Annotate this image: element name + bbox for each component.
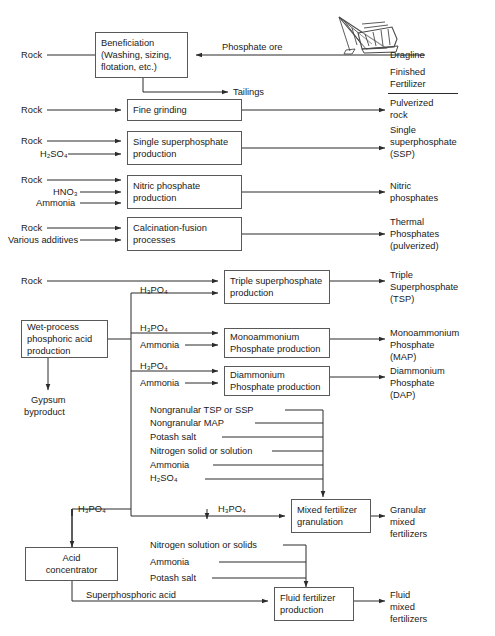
process-line: Fluid fertilizer [280, 592, 348, 604]
output-diammonium-phosphate: Diammonium Phosphate (DAP) [390, 365, 445, 402]
input-label-rock-tsp: Rock [21, 275, 42, 287]
process-box-single-superphosphate[interactable]: Single superphosphate production [127, 131, 242, 165]
process-box-calcination-fusion[interactable]: Calcination-fusion processes [127, 217, 242, 251]
input-label-nongranular-tsp-ssp: Nongranular TSP or SSP [150, 404, 254, 416]
process-box-fine-grinding[interactable]: Fine grinding [127, 99, 242, 121]
output-line: Nitric [390, 180, 438, 192]
input-label-h3po4-concentrator: H₃PO₄ [78, 503, 106, 515]
process-box-acid-concentrator[interactable]: Acid concentrator [25, 547, 118, 581]
input-label-potash-salt-fluid: Potash salt [150, 572, 196, 584]
process-box-monoammonium-phosphate[interactable]: Monoammonium Phosphate production [224, 328, 330, 358]
output-granular-mixed-fertilizers: Granular mixed fertilizers [390, 504, 427, 541]
output-line: Pulverized [390, 97, 433, 109]
input-label-rock-fine-grinding: Rock [21, 104, 42, 116]
input-label-rock-beneficiation: Rock [21, 49, 42, 61]
process-line: Diammonium [230, 369, 324, 381]
output-line: Monoammonium [390, 327, 459, 339]
header-underline [388, 93, 458, 94]
process-line: granulation [297, 516, 365, 528]
output-triple-superphosphate: Triple Superphosphate (TSP) [390, 269, 458, 306]
process-line: Fine grinding [133, 104, 236, 116]
process-box-triple-superphosphate[interactable]: Triple superphosphate production [224, 270, 330, 304]
input-label-h3po4-granulation: H₃PO₄ [218, 503, 246, 515]
process-line: Phosphate production [230, 343, 324, 355]
input-label-rock-calcination: Rock [21, 222, 42, 234]
finished-fertilizer-header-line1: Finished [390, 66, 425, 78]
output-line: (TSP) [390, 293, 458, 305]
process-box-beneficiation[interactable]: Beneficiation (Washing, sizing, flotatio… [95, 32, 188, 78]
input-label-potash-salt-granulation: Potash salt [150, 431, 196, 443]
output-line: fertilizers [390, 613, 427, 625]
process-line: Mixed fertilizer [297, 504, 365, 516]
output-line: fertilizers [390, 528, 427, 540]
output-line: Phosphate [390, 339, 459, 351]
input-label-rock-ssp: Rock [21, 135, 42, 147]
output-line: mixed [390, 601, 427, 613]
input-label-various-additives: Various additives [8, 234, 78, 246]
input-label-nitrogen-solid-or-solution: Nitrogen solid or solution [150, 445, 252, 457]
process-box-wet-process-phosphoric-acid[interactable]: Wet-process phosphoric acid production [21, 320, 108, 358]
intermediate-label-tailings: Tailings [233, 86, 264, 98]
byproduct-label-gypsum-line2: byproduct [24, 406, 65, 418]
process-line: production [133, 192, 236, 204]
output-nitric-phosphates: Nitric phosphates [390, 180, 438, 204]
output-line: mixed [390, 516, 427, 528]
process-line: Calcination-fusion [133, 222, 236, 234]
byproduct-label-gypsum-line1: Gypsum [31, 394, 66, 406]
input-label-nongranular-map: Nongranular MAP [150, 417, 224, 429]
input-label-nitrogen-solution-or-solids: Nitrogen solution or solids [150, 539, 257, 551]
output-line: (pulverized) [390, 240, 439, 252]
process-line: processes [133, 234, 236, 246]
process-line: Monoammonium [230, 331, 324, 343]
output-line: rock [390, 109, 433, 121]
output-single-superphosphate: Single superphosphate (SSP) [390, 124, 457, 161]
input-label-h2so4-granulation: H₂SO₄ [150, 472, 178, 484]
output-line: superphosphate [390, 136, 457, 148]
process-line: Nitric phosphate [133, 180, 236, 192]
process-line: Phosphate production [230, 381, 324, 393]
output-monoammonium-phosphate: Monoammonium Phosphate (MAP) [390, 327, 459, 364]
process-line: Single superphosphate [133, 136, 236, 148]
output-thermal-phosphates: Thermal Phosphates (pulverized) [390, 216, 439, 253]
dragline-label: Dragline [390, 49, 425, 61]
input-label-ammonia-map: Ammonia [140, 339, 179, 351]
flowchart-canvas: Beneficiation (Washing, sizing, flotatio… [0, 0, 495, 636]
process-box-mixed-fertilizer-granulation[interactable]: Mixed fertilizer granulation [291, 499, 371, 533]
input-label-ammonia-dap: Ammonia [140, 377, 179, 389]
output-line: Thermal [390, 216, 439, 228]
input-label-ammonia-nitric: Ammonia [36, 197, 75, 209]
process-line: production [133, 148, 236, 160]
output-line: Triple [390, 269, 458, 281]
input-label-superphosphoric-acid: Superphosphoric acid [86, 589, 176, 601]
output-line: Phosphates [390, 228, 439, 240]
process-line: Beneficiation [101, 37, 182, 49]
output-line: (MAP) [390, 351, 459, 363]
process-line: phosphoric acid [27, 333, 102, 345]
output-line: Phosphate [390, 377, 445, 389]
process-box-fluid-fertilizer-production[interactable]: Fluid fertilizer production [274, 587, 354, 621]
output-line: Diammonium [390, 365, 445, 377]
input-label-phosphate-ore: Phosphate ore [222, 41, 282, 53]
process-line: production [230, 287, 324, 299]
process-box-nitric-phosphate[interactable]: Nitric phosphate production [127, 175, 242, 209]
input-label-h3po4-map: H₃PO₄ [140, 322, 168, 334]
output-line: (SSP) [390, 148, 457, 160]
output-line: Single [390, 124, 457, 136]
input-label-rock-nitric: Rock [21, 174, 42, 186]
input-label-ammonia-fluid: Ammonia [150, 556, 189, 568]
output-line: Granular [390, 504, 427, 516]
process-line: concentrator [46, 564, 98, 576]
finished-fertilizer-header-line2: Fertilizer [390, 78, 426, 90]
process-line: Triple superphosphate [230, 275, 324, 287]
output-line: Superphosphate [390, 281, 458, 293]
process-line: Wet-process [27, 321, 102, 333]
output-line: Fluid [390, 589, 427, 601]
input-label-h3po4-tsp: H₃PO₄ [140, 284, 168, 296]
process-line: production [27, 345, 102, 357]
output-line: phosphates [390, 192, 438, 204]
input-label-ammonia-granulation: Ammonia [150, 459, 189, 471]
process-box-diammonium-phosphate[interactable]: Diammonium Phosphate production [224, 366, 330, 396]
process-line: production [280, 604, 348, 616]
input-label-h3po4-dap: H₃PO₄ [140, 360, 168, 372]
process-line: Acid [62, 552, 80, 564]
